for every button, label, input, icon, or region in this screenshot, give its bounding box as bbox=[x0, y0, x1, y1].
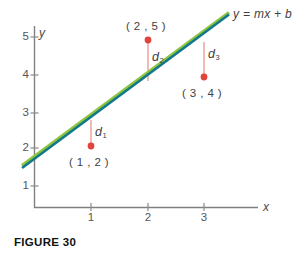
residual-label-d2-text: d bbox=[152, 50, 159, 64]
residual-label-d1: d1 bbox=[95, 126, 106, 139]
residual-label-d3-text: d bbox=[208, 47, 215, 61]
line-equation-label: y = mx + b bbox=[233, 8, 292, 20]
point-label-2: ( 2 , 5 ) bbox=[126, 21, 166, 33]
y-tick-label-2: 2 bbox=[19, 142, 29, 154]
y-tick-label-5: 5 bbox=[19, 31, 29, 43]
data-point-1 bbox=[88, 143, 95, 150]
residual-label-d3: d3 bbox=[208, 48, 219, 61]
y-axis-label: y bbox=[39, 27, 45, 39]
residual-label-d1-sub: 1 bbox=[102, 131, 106, 140]
residual-label-d2-sub: 2 bbox=[159, 56, 163, 65]
x-tick-label-1: 1 bbox=[86, 212, 96, 224]
x-tick-label-3: 3 bbox=[199, 212, 209, 224]
data-point-3 bbox=[201, 74, 208, 81]
y-tick-label-1: 1 bbox=[19, 180, 29, 192]
y-tick-label-3: 3 bbox=[19, 107, 29, 119]
figure-30: 5 4 3 2 1 1 2 3 y x y = mx + b ( 1 , 2 )… bbox=[0, 0, 305, 258]
x-tick-label-2: 2 bbox=[143, 212, 153, 224]
x-axis-label: x bbox=[263, 201, 269, 213]
residual-label-d2: d2 bbox=[152, 51, 163, 64]
residual-label-d1-text: d bbox=[95, 125, 102, 139]
residual-label-d3-sub: 3 bbox=[215, 53, 219, 62]
point-label-1: ( 1 , 2 ) bbox=[69, 157, 109, 169]
data-point-2 bbox=[145, 37, 152, 44]
y-tick-label-4: 4 bbox=[19, 69, 29, 81]
figure-caption: FIGURE 30 bbox=[14, 236, 76, 248]
point-label-3: ( 3 , 4 ) bbox=[182, 88, 222, 100]
